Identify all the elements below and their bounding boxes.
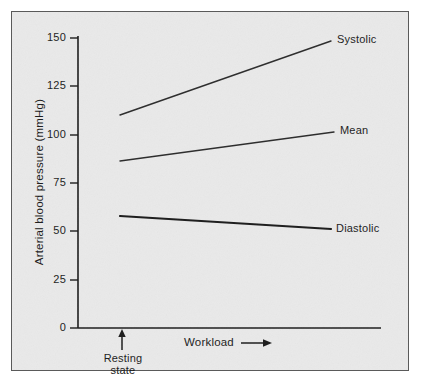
workload-arrow-icon (241, 339, 272, 347)
series-line-systolic (120, 41, 331, 115)
y-tick-label-0: 0 (38, 321, 66, 333)
series-label-diastolic: Diastolic (336, 222, 379, 234)
figure-container: 150 125 100 75 50 25 0 Arterial blood pr… (0, 0, 421, 383)
resting-state-line-1: Resting (95, 352, 151, 364)
x-axis-workload-label: Workload (184, 336, 234, 348)
y-axis-ticks (70, 38, 78, 328)
resting-state-arrow-icon (118, 329, 125, 350)
series-line-diastolic (120, 216, 331, 229)
x-axis-resting-state-label: Resting state (95, 352, 151, 376)
resting-state-line-2: state (95, 364, 151, 376)
series-label-systolic: Systolic (337, 33, 377, 45)
series-label-mean: Mean (340, 124, 368, 136)
y-axis-title: Arterial blood pressure (mmHg) (33, 62, 45, 302)
series-line-mean (120, 132, 334, 161)
y-tick-label-150: 150 (38, 31, 66, 43)
